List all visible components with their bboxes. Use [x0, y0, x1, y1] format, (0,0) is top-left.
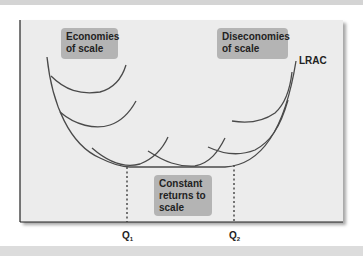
q1-subscript: 1	[130, 236, 133, 242]
economies-line-2: of scale	[66, 43, 113, 55]
lrac-curve	[47, 57, 296, 167]
q1-label: Q1	[122, 230, 133, 242]
q2-subscript: 2	[237, 236, 240, 242]
q2-letter: Q	[229, 230, 237, 241]
constant-line-2: returns to	[159, 190, 207, 202]
economies-line-1: Economies	[66, 31, 113, 43]
chart-plot-area	[0, 0, 363, 256]
diseconomies-line-2: of scale	[222, 43, 283, 55]
q2-label: Q2	[229, 230, 240, 242]
srac-curve-4	[148, 138, 225, 166]
constant-line-1: Constant	[159, 178, 207, 190]
bottom-divider-band	[0, 246, 363, 256]
diseconomies-of-scale-label: Diseconomies of scale	[217, 28, 288, 59]
srac-curve-3	[92, 137, 168, 165]
q1-letter: Q	[122, 230, 130, 241]
economies-of-scale-label: Economies of scale	[61, 28, 118, 59]
diseconomies-line-1: Diseconomies	[222, 31, 283, 43]
constant-line-3: scale	[159, 202, 207, 214]
srac-curve-2	[60, 101, 136, 127]
constant-returns-label: Constant returns to scale	[154, 175, 212, 216]
lrac-label: LRAC	[299, 55, 327, 66]
srac-curve-1	[51, 65, 126, 93]
